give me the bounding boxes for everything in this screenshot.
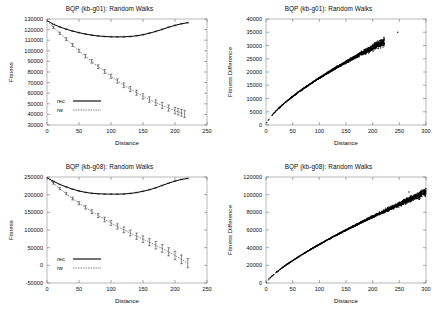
- svg-text:200: 200: [170, 286, 179, 292]
- svg-text:100: 100: [315, 286, 324, 292]
- svg-text:35000: 35000: [246, 29, 262, 35]
- svg-text:rec: rec: [57, 98, 65, 104]
- plot-top-left: 0501001502002503000040000500006000070000…: [0, 0, 219, 158]
- plot-bottom-right: 0501001502002503000200004000060000800001…: [219, 158, 438, 316]
- svg-text:250: 250: [395, 128, 404, 134]
- svg-text:20000: 20000: [246, 69, 262, 75]
- svg-text:250: 250: [202, 128, 211, 134]
- figure-grid: BQP (kb-g01): Random Walks 0501001502002…: [0, 0, 439, 316]
- svg-text:Fitness: Fitness: [7, 220, 14, 240]
- svg-text:90000: 90000: [27, 58, 43, 64]
- panel-bottom-right: BQP (kb-g08): Random Walks 0501001502002…: [219, 158, 438, 316]
- svg-text:Fitness Difference: Fitness Difference: [226, 47, 233, 97]
- svg-text:60000: 60000: [246, 227, 262, 233]
- svg-text:200: 200: [368, 286, 377, 292]
- svg-text:50000: 50000: [27, 101, 43, 107]
- plot-top-right: 0501001502002503000500010000150002000025…: [219, 0, 438, 158]
- svg-text:30000: 30000: [246, 43, 262, 49]
- svg-text:25000: 25000: [246, 56, 262, 62]
- svg-text:100000: 100000: [243, 192, 262, 198]
- svg-text:Distance: Distance: [334, 297, 359, 304]
- svg-text:150: 150: [138, 286, 147, 292]
- svg-text:250: 250: [202, 286, 211, 292]
- svg-text:250: 250: [395, 286, 404, 292]
- svg-text:40000: 40000: [246, 245, 262, 251]
- svg-text:0: 0: [264, 286, 267, 292]
- svg-text:150: 150: [138, 128, 147, 134]
- svg-text:130000: 130000: [24, 16, 43, 22]
- svg-text:rw: rw: [57, 265, 64, 271]
- svg-text:50: 50: [290, 286, 296, 292]
- svg-text:80000: 80000: [27, 69, 43, 75]
- panel-bottom-left: BQP (kb-g08): Random Walks 0501001502002…: [0, 158, 219, 316]
- svg-text:0: 0: [45, 286, 48, 292]
- svg-text:120000: 120000: [243, 174, 262, 180]
- svg-text:Fitness Difference: Fitness Difference: [226, 205, 233, 255]
- svg-text:30000: 30000: [27, 122, 43, 128]
- svg-text:150: 150: [341, 128, 350, 134]
- svg-text:10000: 10000: [246, 96, 262, 102]
- svg-text:80000: 80000: [246, 209, 262, 215]
- svg-text:200000: 200000: [24, 192, 43, 198]
- svg-text:110000: 110000: [25, 37, 43, 43]
- svg-text:Distance: Distance: [334, 139, 359, 146]
- svg-text:150000: 150000: [24, 209, 43, 215]
- svg-text:0: 0: [45, 128, 48, 134]
- svg-text:rec: rec: [57, 256, 65, 262]
- svg-text:50: 50: [290, 128, 296, 134]
- svg-text:300: 300: [421, 128, 430, 134]
- svg-text:70000: 70000: [27, 80, 43, 86]
- svg-text:rw: rw: [57, 107, 64, 113]
- svg-text:Fitness: Fitness: [7, 62, 14, 82]
- svg-text:50000: 50000: [27, 245, 43, 251]
- svg-text:40000: 40000: [27, 111, 43, 117]
- svg-text:100000: 100000: [24, 227, 43, 233]
- svg-text:0: 0: [259, 122, 262, 128]
- svg-text:100000: 100000: [24, 48, 43, 54]
- svg-text:15000: 15000: [246, 82, 262, 88]
- svg-text:20000: 20000: [246, 262, 262, 268]
- svg-text:0: 0: [264, 128, 267, 134]
- svg-text:200: 200: [170, 128, 179, 134]
- svg-text:250000: 250000: [24, 174, 43, 180]
- svg-text:100: 100: [106, 128, 115, 134]
- panel-top-right: BQP (kb-g01): Random Walks 0501001502002…: [219, 0, 438, 158]
- svg-text:300: 300: [421, 286, 430, 292]
- svg-text:100: 100: [106, 286, 115, 292]
- panel-top-left: BQP (kb-g01): Random Walks 0501001502002…: [0, 0, 219, 158]
- svg-text:40000: 40000: [246, 16, 262, 22]
- svg-text:-50000: -50000: [26, 280, 43, 286]
- svg-text:5000: 5000: [250, 109, 262, 115]
- svg-text:50: 50: [76, 128, 82, 134]
- svg-text:0: 0: [40, 262, 43, 268]
- svg-text:Distance: Distance: [115, 139, 140, 146]
- svg-text:0: 0: [259, 280, 262, 286]
- svg-text:60000: 60000: [27, 90, 43, 96]
- svg-text:Distance: Distance: [115, 297, 140, 304]
- svg-text:200: 200: [368, 128, 377, 134]
- svg-text:50: 50: [76, 286, 82, 292]
- svg-text:150: 150: [341, 286, 350, 292]
- svg-text:100: 100: [315, 128, 324, 134]
- plot-bottom-left: 050100150200250-500000500001000001500002…: [0, 158, 219, 316]
- svg-text:120000: 120000: [24, 27, 43, 33]
